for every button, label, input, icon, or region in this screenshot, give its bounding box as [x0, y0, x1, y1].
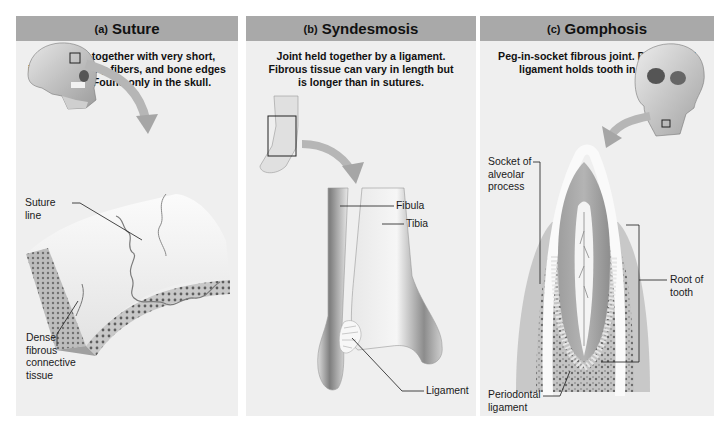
- label-periodontal-ligament: Periodontal ligament: [488, 389, 541, 414]
- label-suture-line: Suture line: [25, 197, 56, 222]
- skull-icon: [635, 44, 704, 136]
- label-socket-of-alveolar-process: Socket of alveolar process: [488, 156, 531, 194]
- label-ligament: Ligament: [426, 385, 469, 398]
- arrow-head-icon: [136, 114, 158, 134]
- arrow-icon: [612, 116, 650, 134]
- skull-icon: [28, 43, 96, 109]
- panel-syndesmosis: (b) Syndesmosis Joint held together by a…: [246, 16, 476, 416]
- label-dense-fibrous-connective-tissue: Dense fibrous connective tissue: [26, 332, 76, 382]
- foot-icon: [260, 96, 298, 173]
- label-root-of-tooth: Root of tooth: [670, 274, 704, 299]
- fibula-bone: [318, 188, 348, 390]
- syndesmosis-illustration: [246, 16, 476, 416]
- label-fibula: Fibula: [396, 200, 424, 213]
- tibia-bone: [351, 188, 442, 364]
- label-tibia: Tibia: [406, 218, 428, 231]
- panel-gomphosis: (c) Gomphosis Peg-in-socket fibrous join…: [480, 16, 714, 416]
- panel-suture: (a) Suture Joint held together with very…: [16, 16, 238, 416]
- gomphosis-illustration: [480, 16, 714, 416]
